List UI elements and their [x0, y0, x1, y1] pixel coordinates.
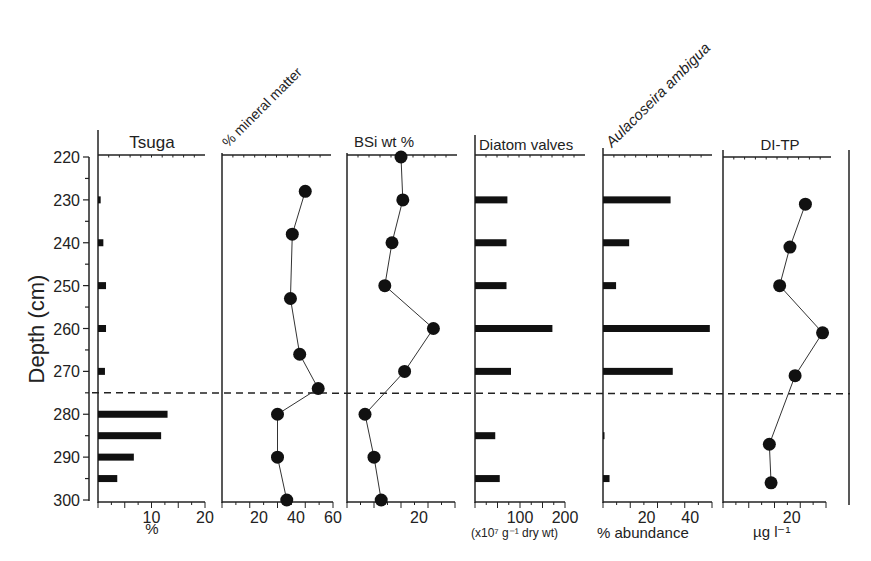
data-bar [603, 325, 710, 332]
data-point [763, 438, 776, 451]
panel-title-aulacoseira: Aulacoseira ambigua [601, 39, 713, 151]
data-point [271, 451, 284, 464]
data-bar [98, 196, 101, 203]
x-tick-label: 100 [507, 509, 534, 526]
data-bar [475, 196, 507, 203]
xlabel-tsuga: % [145, 520, 158, 537]
data-bar [98, 282, 106, 289]
panel-ditp: 20 [723, 150, 831, 526]
panel-tsuga: 1020 [98, 130, 214, 526]
data-bar [475, 368, 511, 375]
panel-title-mineral: % mineral matter [219, 64, 305, 150]
data-bar [475, 432, 495, 439]
panel-diatom: 100200 [475, 135, 585, 526]
data-point [312, 382, 325, 395]
data-point [286, 228, 299, 241]
panel-aulacoseira: 2040 [603, 148, 712, 526]
data-bar [98, 411, 168, 418]
data-point [368, 451, 381, 464]
data-bar [98, 454, 134, 461]
panel-mineral: 204060 [222, 153, 342, 526]
panels: 102020406020100200204020 [98, 130, 831, 526]
data-point [396, 193, 409, 206]
data-point [299, 185, 312, 198]
data-bar [603, 368, 673, 375]
depth-tick-label: 230 [53, 192, 80, 209]
x-tick-label: 20 [410, 509, 428, 526]
data-point [398, 365, 411, 378]
xlabel-aulacoseira: % abundance [597, 524, 689, 541]
data-point [765, 476, 778, 489]
depth-tick-label: 250 [53, 278, 80, 295]
x-tick-label: 20 [250, 509, 268, 526]
data-point [427, 322, 440, 335]
x-tick-label: 200 [552, 509, 579, 526]
panel-title-bsi: BSi wt % [354, 133, 414, 150]
data-bar [98, 325, 106, 332]
depth-tick-label: 300 [53, 492, 80, 509]
xlabel-ditp: µg l⁻¹ [753, 523, 790, 540]
x-tick-label: 60 [324, 509, 342, 526]
panel-bsi: 20 [347, 151, 457, 527]
data-bar [98, 432, 161, 439]
stratigraphic-chart: 220230240250260270280290300 Depth (cm) 1… [0, 0, 871, 561]
depth-tick-label: 270 [53, 363, 80, 380]
data-point [799, 198, 812, 211]
data-point [284, 292, 297, 305]
data-point [359, 408, 372, 421]
depth-tick-label: 290 [53, 449, 80, 466]
reference-line [92, 393, 850, 394]
data-bar [475, 325, 552, 332]
x-tick-label: 40 [287, 509, 305, 526]
data-bar [98, 368, 105, 375]
x-tick-label: 20 [196, 509, 214, 526]
data-point [789, 369, 802, 382]
depth-axis-label: Depth (cm) [24, 275, 49, 384]
data-bar [603, 282, 616, 289]
data-point [271, 408, 284, 421]
data-bar [98, 475, 117, 482]
depth-tick-label: 280 [53, 406, 80, 423]
data-point [386, 236, 399, 249]
data-bar [603, 239, 629, 246]
depth-tick-label: 240 [53, 235, 80, 252]
data-point [773, 279, 786, 292]
panel-title-tsuga: Tsuga [129, 133, 175, 152]
depth-tick-label: 260 [53, 321, 80, 338]
depth-tick-label: 220 [53, 149, 80, 166]
data-point [280, 494, 293, 507]
panel-title-diatom: Diatom valves [479, 136, 573, 153]
data-bar [475, 475, 500, 482]
depth-axis: 220230240250260270280290300 Depth (cm) [24, 149, 89, 509]
data-bar [475, 282, 507, 289]
data-bar [98, 239, 103, 246]
data-bar [603, 475, 610, 482]
data-point [378, 279, 391, 292]
panel-title-ditp: DI-TP [760, 136, 799, 153]
data-point [293, 348, 306, 361]
data-bar [475, 239, 507, 246]
data-point [816, 326, 829, 339]
data-bar [603, 196, 671, 203]
xlabel-diatom: (x10⁷ g⁻¹ dry wt) [471, 526, 558, 540]
data-point [783, 241, 796, 254]
data-bar [603, 432, 605, 439]
data-point [395, 151, 408, 164]
data-point [375, 494, 388, 507]
